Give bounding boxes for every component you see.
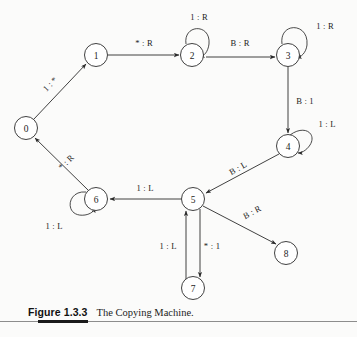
state-label-3: 3: [286, 51, 291, 61]
edge-label-0-1: 1 : *: [41, 75, 60, 94]
edge-label-4-5: B : L: [227, 159, 248, 177]
state-node-2[interactable]: 2: [181, 44, 204, 67]
figure-caption: Figure 1.3.3The Copying Machine.: [28, 306, 194, 318]
edge-2-to-3: B : R: [206, 38, 275, 57]
edge-label-7-5: 1 : L: [159, 241, 176, 251]
state-label-2: 2: [190, 51, 195, 61]
state-label-0: 0: [24, 124, 29, 134]
edge-label-3-self: 1 : R: [316, 21, 334, 31]
figure-number: Figure 1.3.3: [28, 306, 88, 318]
state-label-6: 6: [94, 195, 99, 205]
edge-7-to-5: 1 : L: [159, 211, 186, 279]
state-diagram: 1 : * * : R 1 : R B : R 1 : R B : 1: [0, 0, 357, 337]
state-node-1[interactable]: 1: [85, 44, 108, 67]
edge-label-2-3: B : R: [230, 38, 249, 48]
state-node-4[interactable]: 4: [277, 135, 300, 158]
figure-caption-bar: Figure 1.3.3The Copying Machine.: [0, 303, 357, 329]
edge-1-to-2: * : R: [108, 38, 179, 55]
edge-label-5-6: 1 : L: [136, 183, 153, 193]
edge-label-6-self: 1 : L: [45, 221, 62, 231]
state-node-7[interactable]: 7: [182, 277, 205, 300]
state-label-7: 7: [191, 284, 196, 294]
edge-label-6-0: * : R: [56, 152, 76, 172]
edge-5-to-6: 1 : L: [110, 183, 181, 199]
state-node-8[interactable]: 8: [275, 242, 298, 265]
edge-label-2-self: 1 : R: [190, 12, 208, 22]
state-label-5: 5: [191, 195, 196, 205]
edge-3-to-4: B : 1: [288, 67, 314, 133]
state-label-4: 4: [286, 142, 291, 152]
edge-label-4-self: 1 : L: [318, 119, 335, 129]
edge-label-3-4: B : 1: [296, 96, 314, 106]
figure-title: The Copying Machine.: [97, 307, 194, 318]
edge-label-5-7: * : 1: [204, 241, 220, 251]
state-label-8: 8: [284, 249, 289, 259]
edge-label-1-2: * : R: [135, 38, 153, 48]
state-node-3[interactable]: 3: [277, 44, 300, 67]
state-label-1: 1: [94, 51, 99, 61]
edge-6-to-0: * : R: [35, 138, 88, 190]
edge-4-to-5: B : L: [206, 154, 279, 193]
figure-container: 1 : * * : R 1 : R B : R 1 : R B : 1: [0, 0, 357, 337]
caption-rule-thick: [38, 320, 88, 323]
state-node-0[interactable]: 0: [15, 117, 38, 140]
edge-label-5-8: B : R: [241, 203, 263, 221]
edge-5-to-7: * : 1: [200, 209, 220, 277]
edge-0-to-1: 1 : *: [34, 64, 86, 119]
state-node-5[interactable]: 5: [182, 188, 205, 211]
state-node-6[interactable]: 6: [85, 188, 108, 211]
edge-5-to-8: B : R: [203, 203, 276, 244]
